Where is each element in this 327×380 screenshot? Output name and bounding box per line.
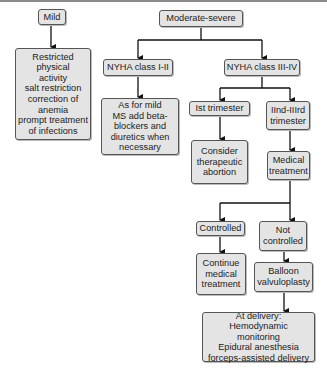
node-text: treatment: [269, 166, 308, 177]
node-text: valvuloplasty: [257, 277, 310, 288]
node-consider-abortion: Consider therapeutic abortion: [191, 140, 248, 184]
node-moderate-severe: Moderate-severe: [159, 10, 243, 27]
node-text: treatment: [202, 279, 241, 290]
node-text: therapeutic: [197, 157, 242, 168]
node-nyha-1-2: NYHA class I-II: [103, 59, 173, 76]
node-text: Consider: [201, 146, 238, 157]
node-text: Controlled: [200, 223, 242, 234]
node-text: activity: [39, 73, 67, 84]
node-text: blockers and: [114, 121, 166, 132]
node-text: Epidural anesthesia: [218, 342, 299, 353]
node-nyha-3-4: NYHA class III-IV: [224, 59, 300, 76]
node-first-trimester: Ist trimester: [189, 101, 250, 116]
node-text: prompt treatment: [18, 115, 88, 126]
node-text: Not: [276, 225, 290, 236]
node-text: Moderate-severe: [166, 13, 235, 24]
node-text: Balloon: [268, 266, 299, 277]
node-text: anemia: [38, 105, 68, 116]
node-controlled: Controlled: [196, 221, 245, 236]
node-text: At delivery:: [236, 311, 281, 322]
node-mild: Mild: [38, 9, 66, 25]
node-medical-treatment: Medical treatment: [267, 151, 310, 180]
node-text: NYHA class I-II: [107, 62, 169, 73]
node-second-third-trimester: IInd-IIIrd trimester: [266, 101, 310, 130]
node-text: salt restriction: [25, 83, 82, 94]
node-text: MS add beta-: [112, 111, 167, 122]
node-text: forceps-assisted delivery: [208, 353, 309, 364]
node-text: Ist trimester: [196, 103, 244, 114]
node-text: trimester: [270, 116, 306, 127]
node-text: NYHA class III-IV: [227, 62, 297, 73]
node-text: necessary: [119, 142, 161, 153]
node-text: Mild: [44, 12, 61, 23]
node-text: As for mild: [118, 100, 161, 111]
node-at-delivery: At delivery: Hemodynamic monitoring Epid…: [202, 312, 315, 362]
node-text: Medical: [273, 155, 305, 166]
node-text: correction of: [28, 94, 79, 105]
node-text: monitoring: [237, 332, 280, 343]
node-text: of infections: [28, 126, 77, 137]
node-text: controlled: [263, 236, 303, 247]
node-mild-treatment: Restricted physical activity salt restri…: [15, 48, 91, 140]
node-text: diuretics when: [111, 132, 170, 143]
node-text: IInd-IIIrd: [271, 105, 305, 116]
node-balloon-valvuloplasty: Balloon valvuloplasty: [254, 262, 313, 292]
node-text: Continue: [203, 258, 240, 269]
node-continue-medical: Continue medical treatment: [196, 253, 246, 295]
node-nyha-1-2-treatment: As for mild MS add beta- blockers and di…: [101, 98, 179, 155]
node-text: physical: [36, 62, 69, 73]
node-text: medical: [205, 269, 237, 280]
node-text: Restricted: [32, 52, 73, 63]
node-text: Hemodynamic: [229, 321, 288, 332]
node-text: abortion: [203, 167, 236, 178]
node-not-controlled: Not controlled: [259, 221, 307, 251]
